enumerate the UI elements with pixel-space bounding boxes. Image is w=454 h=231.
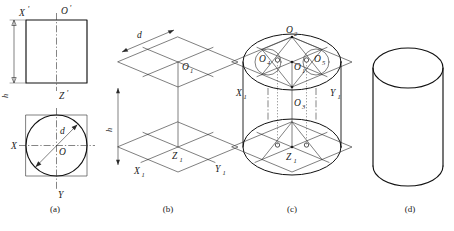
cylinder-top-ellipse (373, 48, 443, 88)
panel-c-label-y1-sub: 1 (338, 93, 341, 100)
panel-b-label-y1-sub: 1 (223, 169, 226, 176)
panel-d (373, 48, 443, 186)
panel-c-label-z1: Z (286, 152, 292, 162)
panel-c-bottom-grid-tick-2 (322, 132, 327, 134)
panel-a-label-o-prime: O (61, 6, 68, 16)
figure-canvas: h X ' O ' Z ' d X O Y (0, 0, 454, 231)
panel-a-label-x-prime-mark: ' (28, 5, 30, 14)
panel-c-ray-base-to-left-top (262, 50, 292, 88)
panel-b-label-x1-sub: 1 (142, 171, 145, 178)
panel-c-top-grid-tick-1 (257, 47, 262, 49)
panel-b-bottom-grid-tick-2 (208, 132, 213, 134)
panel-b: d h O 1 Z 1 X 1 Y 1 (104, 30, 238, 178)
panel-b-top-grid-tick-4 (143, 75, 148, 77)
caption-a: (a) (50, 204, 60, 214)
panel-a-label-x-prime: X (18, 8, 26, 18)
panel-c-ray-apex-to-right-top (292, 37, 322, 50)
panel-c-tangent-point-top-right (304, 58, 308, 62)
panel-c-label-z1-sub: 1 (294, 157, 297, 164)
technical-drawing-figure: h X ' O ' Z ' d X O Y (0, 0, 454, 231)
panel-b-bottom-grid-tick-3 (208, 160, 215, 163)
panel-b-label-y1: Y (215, 164, 222, 174)
panel-c-tangent-point-top-left (275, 58, 279, 62)
panel-c-top-grid-tick-2 (322, 47, 327, 49)
caption-c: (c) (287, 204, 297, 214)
caption-d: (d) (405, 204, 416, 214)
panel-a-label-z-prime: Z (59, 91, 65, 101)
panel-b-label-diameter: d (137, 30, 142, 40)
panel-b-label-z1: Z (172, 151, 178, 161)
panel-a-label-o: O (59, 147, 66, 157)
panel-c-label-o4: O (259, 54, 266, 64)
panel-a: h X ' O ' Z ' d X O Y (0, 4, 95, 201)
panel-b-top-grid-tick-1 (143, 47, 148, 49)
panel-c-label-y1: Y (330, 88, 337, 98)
panel-a-label-o-prime-mark: ' (70, 4, 72, 13)
panel-b-top-grid-tick-2 (208, 47, 213, 49)
panel-b-top-grid-tick-3 (208, 75, 213, 77)
panel-c-label-o2: O (286, 25, 293, 35)
panel-b-label-o1-sub: 1 (190, 67, 193, 74)
panel-b-label-x1: X (133, 166, 141, 176)
cylinder-bottom-arc (373, 166, 443, 186)
panel-c-bottom-ray-right (292, 122, 322, 160)
panel-a-label-diameter: d (60, 126, 65, 136)
panel-c-bottom-grid-tick-1 (257, 132, 262, 134)
panel-c-label-o1: O (294, 62, 301, 72)
panel-c-label-o1-sub: 1 (302, 67, 305, 74)
panel-c-label-o2-sub: 2 (294, 30, 298, 37)
panel-c-label-o3: O (294, 98, 301, 108)
panel-a-label-z-prime-mark: ' (67, 89, 69, 98)
panel-c-label-x1: X (235, 88, 243, 98)
panel-c-center-o2-dot (291, 36, 294, 39)
panel-c-label-x1-sub: 1 (244, 93, 247, 100)
panel-c: O 2 O 4 O 1 O 5 O 3 (232, 25, 352, 175)
panel-a-label-x: X (10, 141, 18, 151)
panel-b-label-z1-sub: 1 (180, 156, 183, 163)
panel-c-label-o5-sub: 5 (322, 59, 326, 66)
panel-c-bottom-grid-tick-3 (322, 160, 329, 163)
panel-c-top-grid-tick-4 (257, 75, 262, 77)
panel-c-top-grid-tick-3 (322, 75, 327, 77)
caption-b: (b) (163, 204, 174, 214)
panel-c-label-o5: O (314, 54, 321, 64)
panel-b-bottom-grid-tick-1 (143, 132, 148, 134)
panel-b-height-label: h (104, 128, 114, 132)
panel-c-label-o3-sub: 3 (301, 103, 306, 110)
panel-c-bottom-grid-tick-4 (255, 160, 262, 163)
panel-a-label-y: Y (58, 190, 65, 200)
panel-a-height-label: h (0, 94, 10, 98)
panel-b-label-o1: O (182, 62, 189, 72)
panel-c-ray-apex-to-left-top (262, 37, 292, 50)
panel-c-ray-apex-to-left-mid (262, 37, 292, 75)
panel-b-height-arrow-down-icon (116, 160, 120, 165)
panel-b-bottom-grid-tick-4 (141, 160, 148, 163)
panel-captions: (a) (b) (c) (d) (50, 204, 415, 214)
panel-b-height-arrow-up-icon (116, 88, 120, 93)
panel-b-diameter-dimension-line (122, 30, 174, 52)
